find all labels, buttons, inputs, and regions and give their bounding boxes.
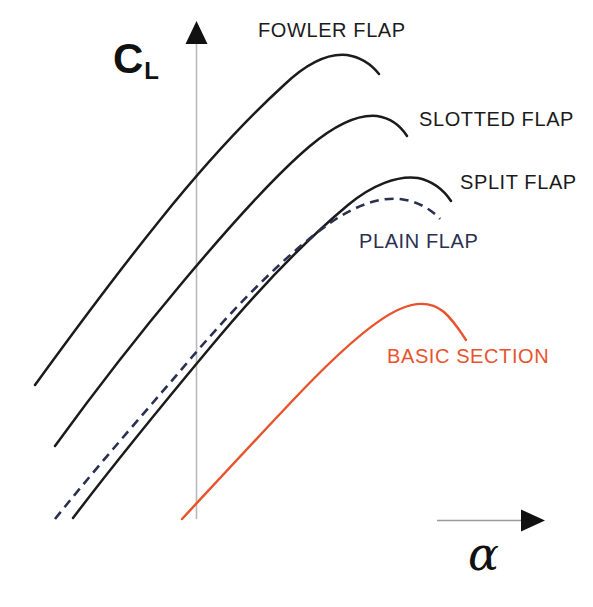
curve-basic-section [182,304,466,519]
label-plain-flap: PLAIN FLAP [359,230,478,253]
label-slotted-flap: SLOTTED FLAP [419,108,574,131]
lift-curve-figure: CL α FOWLER FLAP SLOTTED FLAP SPLIT FLAP… [0,0,593,607]
y-axis-label: CL [113,38,158,80]
curve-fowler-flap [35,55,379,385]
y-axis-label-main: C [113,35,143,82]
x-axis-arrowhead [521,510,545,532]
y-axis-label-subscript: L [144,57,159,84]
label-split-flap: SPLIT FLAP [460,171,577,194]
y-axis-arrowhead [186,21,208,44]
label-fowler-flap: FOWLER FLAP [258,19,406,42]
plot-canvas [0,0,593,607]
x-axis-label: α [468,527,499,581]
curve-slotted-flap [55,116,407,446]
label-basic-section: BASIC SECTION [387,345,549,368]
